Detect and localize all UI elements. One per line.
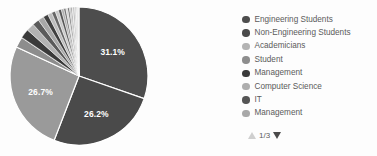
pie-slice-value-label: 26.2% [84, 109, 109, 119]
legend-item-label: IT [255, 96, 262, 104]
pie-chart-widget: 31.1%26.2%26.7% Engineering StudentsNon-… [0, 0, 377, 156]
legend-item[interactable]: Non-Engineering Students [242, 26, 377, 39]
legend-item[interactable]: Computer Science [242, 80, 377, 93]
legend-item-label: Student [255, 56, 283, 64]
legend-item[interactable]: Engineering Students [242, 13, 377, 26]
legend-color-swatch [242, 43, 250, 51]
legend-area: Engineering StudentsNon-Engineering Stud… [200, 0, 377, 156]
legend-pager[interactable]: 1/3 [248, 131, 281, 140]
legend-item[interactable]: Management [242, 67, 377, 80]
triangle-up-icon[interactable] [248, 132, 256, 139]
pie-chart-area: 31.1%26.2%26.7% [0, 0, 200, 156]
legend-item-label: Management [255, 109, 303, 117]
pager-label: 1/3 [259, 131, 270, 140]
legend-color-swatch [242, 16, 250, 24]
legend-item[interactable]: IT [242, 93, 377, 106]
pie-slice-value-label: 26.7% [28, 87, 53, 97]
legend-item[interactable]: Student [242, 53, 377, 66]
legend-item-label: Computer Science [255, 83, 322, 91]
legend-color-swatch [242, 110, 250, 118]
legend-item[interactable]: Management [242, 107, 377, 120]
legend-item-label: Non-Engineering Students [255, 29, 351, 37]
legend-color-swatch [242, 96, 250, 104]
pie-slice-group [10, 7, 148, 145]
legend-color-swatch [242, 70, 250, 78]
legend-item[interactable]: Academicians [242, 40, 377, 53]
pie-slice-value-label: 31.1% [100, 47, 125, 57]
legend-color-swatch [242, 29, 250, 37]
legend-item-label: Management [255, 69, 303, 77]
legend-item-label: Engineering Students [255, 16, 333, 24]
legend-color-swatch [242, 83, 250, 91]
pie-chart[interactable]: 31.1%26.2%26.7% [8, 4, 168, 156]
legend-list: Engineering StudentsNon-Engineering Stud… [200, 13, 377, 120]
legend-color-swatch [242, 56, 250, 64]
triangle-down-icon[interactable] [273, 132, 281, 139]
legend-item-label: Academicians [255, 42, 306, 50]
